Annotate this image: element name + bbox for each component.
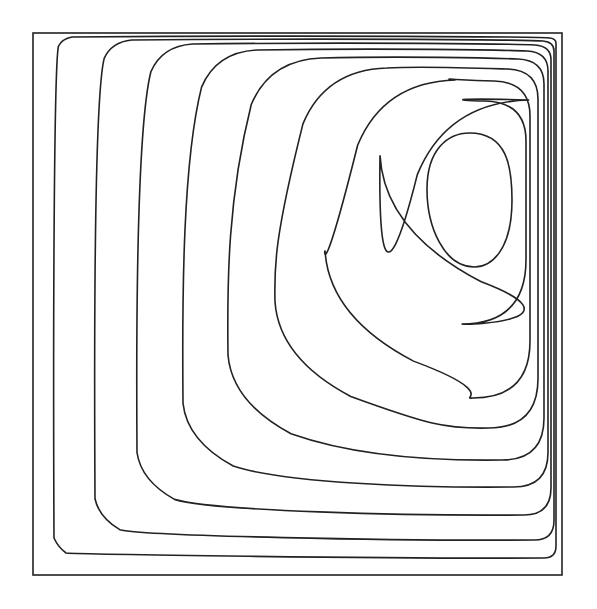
contour-line — [137, 43, 551, 515]
contour-line — [228, 57, 544, 460]
contour-line — [183, 49, 548, 487]
contour-line — [54, 36, 556, 558]
contour-line — [275, 67, 538, 428]
plot-frame — [33, 33, 562, 575]
contour-line — [95, 39, 554, 540]
contour-line — [325, 79, 530, 398]
contour-line — [380, 99, 529, 324]
contour-plot — [0, 0, 597, 609]
contour-line — [427, 133, 512, 267]
